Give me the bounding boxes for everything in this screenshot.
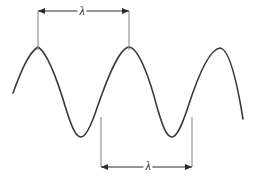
lambda-label-bottom: λ — [143, 160, 152, 172]
wave-figure-canvas — [0, 0, 257, 184]
lambda-label-top: λ — [77, 5, 86, 17]
wave-diagram: λ λ — [0, 0, 257, 184]
